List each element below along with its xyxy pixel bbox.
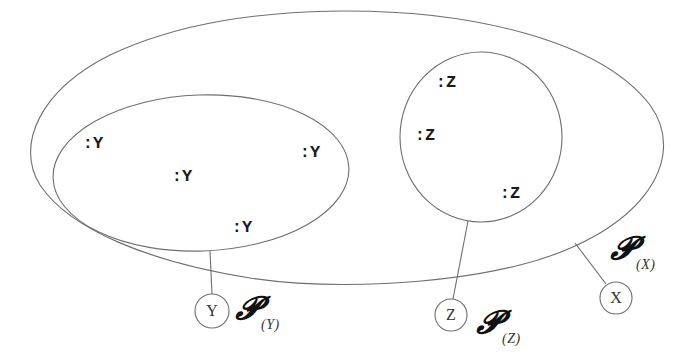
powerset-y-subscript: (Y) [261,318,280,332]
node-x-label: X [610,290,622,306]
instance-z-3: :Z [500,185,520,202]
powerset-z-label: 𝓟(Z) [478,306,521,346]
instance-y-3: :Y [300,144,320,161]
powerset-z-subscript: (Z) [502,332,521,346]
powerset-x-subscript: (X) [636,258,655,272]
powerset-z-symbol: 𝓟 [476,306,503,338]
instance-z-1: :Z [436,74,456,91]
powerset-diagram: :Y :Y :Y :Y :Z :Z :Z Y Z X 𝓟(Y) 𝓟(Z) 𝓟(X… [0,0,697,359]
outer-set-x-ellipse [31,11,664,284]
powerset-y-symbol: 𝓟 [235,292,262,324]
diagram-canvas [0,0,697,359]
connector-y [210,251,212,294]
instance-y-2: :Y [172,168,192,185]
powerset-x-label: 𝓟(X) [612,232,655,272]
connector-x [575,243,606,284]
instance-y-4: :Y [232,219,252,236]
instance-z-2: :Z [415,127,435,144]
node-y-label: Y [206,303,218,319]
node-z-label: Z [446,307,456,323]
powerset-x-symbol: 𝓟 [610,232,637,264]
powerset-y-label: 𝓟(Y) [237,292,280,332]
instance-y-1: :Y [83,135,103,152]
connector-z [453,221,468,299]
